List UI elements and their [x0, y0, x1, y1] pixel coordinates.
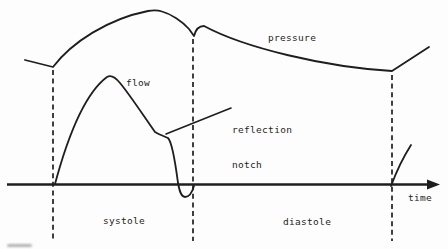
reflection-notch-label: reflection notch: [232, 101, 292, 193]
systole-phase-label: systole: [103, 215, 145, 227]
reflection-notch-leader-line: [166, 108, 231, 134]
cropped-caption-artifact: [7, 244, 32, 247]
reflection-notch-label-line2: notch: [232, 159, 292, 171]
flow-label: flow: [126, 77, 150, 89]
pressure-label: pressure: [268, 32, 316, 44]
flow-curve: [55, 76, 194, 197]
flow-next-beat-upstroke: [391, 145, 411, 186]
time-axis-label: time: [408, 192, 432, 204]
diagram-canvas: [0, 0, 448, 249]
waveform-diagram: pressure flow reflection notch time syst…: [0, 0, 448, 249]
diastole-phase-label: diastole: [283, 216, 331, 228]
pressure-curve: [25, 10, 429, 71]
time-axis-arrowhead-icon: [427, 180, 440, 190]
reflection-notch-label-line1: reflection: [232, 124, 292, 136]
